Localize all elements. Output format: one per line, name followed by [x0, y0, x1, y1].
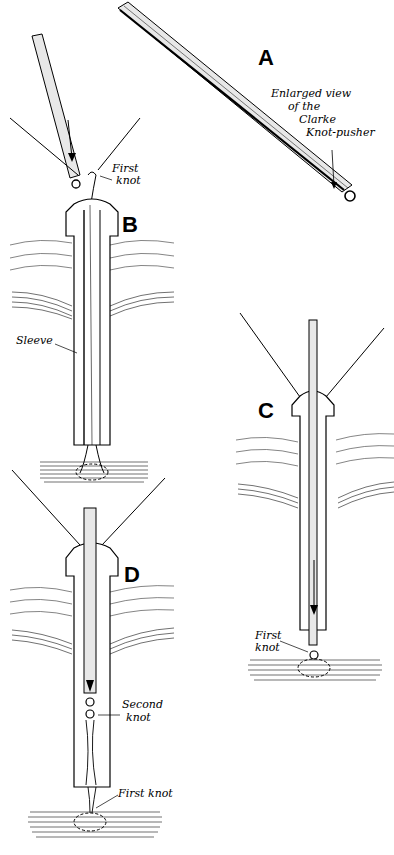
panel-b: First knot B Sleeve: [10, 34, 174, 482]
knot-pusher-hook-icon: [345, 191, 355, 201]
knot-pusher-illustration: A Enlarged view of the Clarke Knot-pushe…: [0, 0, 394, 855]
annotation-second: Second: [122, 698, 163, 711]
panel-letter-d: D: [124, 562, 140, 587]
annotation-of-the: of the: [288, 100, 321, 113]
knot-pusher-rod-d: [84, 508, 96, 693]
annotation-clarke: Clarke: [299, 113, 336, 126]
panel-c: C First knot: [236, 313, 394, 680]
annotation-first-knot: First knot: [117, 787, 173, 800]
annotation-enlarged-view: Enlarged view: [270, 87, 352, 100]
panel-a: A Enlarged view of the Clarke Knot-pushe…: [118, 2, 375, 201]
annotation-knot: knot: [255, 641, 280, 654]
annotation-knot-pusher: Knot-pusher: [305, 126, 375, 139]
trocar-sleeve: [66, 199, 118, 445]
annotation-knot: knot: [116, 174, 141, 187]
panel-d: D Second knot First knot: [10, 470, 174, 837]
panel-letter-b: B: [122, 212, 138, 237]
knot-pusher-rod-c: [309, 320, 317, 645]
panel-letter-a: A: [258, 45, 274, 70]
panel-letter-c: C: [258, 398, 274, 423]
annotation-knot: knot: [126, 711, 151, 724]
annotation-sleeve: Sleeve: [16, 334, 53, 347]
